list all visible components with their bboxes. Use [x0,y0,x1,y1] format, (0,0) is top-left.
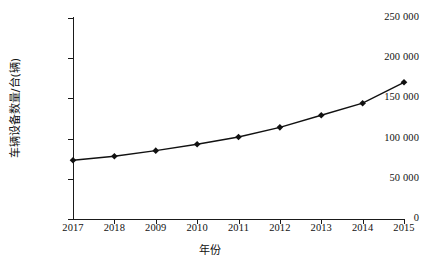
series-data-markers [70,79,408,164]
data-point-marker [235,134,242,141]
data-point-marker [401,79,408,86]
data-point-marker [359,100,366,107]
series-line-path [73,82,404,160]
data-point-marker [111,153,118,160]
data-point-marker [277,124,284,131]
data-point-marker [152,147,159,154]
x-axis-title: 年份 [0,241,419,257]
data-point-marker [70,157,77,164]
data-point-marker [318,112,325,119]
data-point-marker [194,141,201,148]
y-axis-title: 车辆设备数量/台(辆) [6,28,22,188]
